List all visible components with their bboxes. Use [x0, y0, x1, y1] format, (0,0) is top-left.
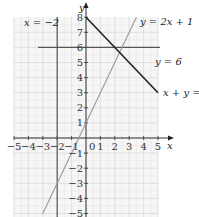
- y-axis-label: y: [78, 2, 85, 13]
- x-tick-label: 2: [112, 141, 118, 152]
- x-tick-label: −2: [50, 141, 65, 152]
- x-tick-label: −3: [35, 141, 50, 152]
- y-tick-label: −2: [68, 163, 83, 174]
- label-y-eq-2x-plus-1: y = 2x + 1: [139, 16, 194, 27]
- y-tick-label: 8: [77, 12, 83, 23]
- y-tick-label: 2: [77, 102, 83, 113]
- x-tick-label: 5: [155, 141, 161, 152]
- y-tick-label: −4: [68, 193, 83, 204]
- y-tick-label: 5: [77, 57, 83, 68]
- y-tick-label: −1: [68, 148, 83, 159]
- y-tick-label: 6: [77, 42, 83, 53]
- x-tick-label: −5: [7, 141, 22, 152]
- x-tick-label: 3: [126, 141, 132, 152]
- x-tick-label: 1: [97, 141, 103, 152]
- y-tick-label: 3: [77, 87, 83, 98]
- x-tick-label: 4: [140, 141, 146, 152]
- coordinate-graph: −5−4−3−2−101234587654321−1−2−3−4−5 x = −…: [0, 0, 199, 217]
- label-x-eq-minus-2: x = −2: [24, 17, 59, 28]
- label-y-eq-6: y = 6: [154, 56, 182, 67]
- x-tick-label: −4: [21, 141, 36, 152]
- y-tick-label: 7: [77, 27, 83, 38]
- y-tick-label: −5: [68, 208, 83, 217]
- y-tick-label: −3: [68, 178, 83, 189]
- label-x-plus-y-eq-8: x + y = 8: [163, 87, 199, 98]
- x-axis-label: x: [167, 140, 173, 151]
- y-tick-label: 4: [77, 72, 83, 83]
- y-tick-label: 1: [77, 117, 83, 128]
- x-tick-label: 0: [89, 141, 95, 152]
